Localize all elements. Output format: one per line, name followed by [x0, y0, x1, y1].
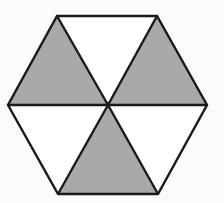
hexagon-diagram [0, 0, 224, 203]
